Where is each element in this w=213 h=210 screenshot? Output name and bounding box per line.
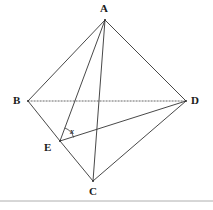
geometry-figure: A B C D E x (0, 0, 213, 210)
edge-ad (105, 20, 186, 101)
edge-ac (93, 20, 105, 181)
vertex-dot-c (92, 180, 94, 182)
edge-ec (60, 141, 93, 181)
edge-bе (28, 101, 60, 141)
edge-ed (60, 101, 186, 141)
angle-label-x: x (70, 128, 74, 136)
vertex-label-a: A (100, 3, 108, 14)
vertex-label-c: C (89, 186, 97, 197)
vertex-label-b: B (13, 95, 20, 106)
edge-cd (93, 101, 186, 181)
edge-ae (60, 20, 105, 141)
vertex-dot-d (185, 100, 187, 102)
vertex-dot-a (104, 19, 106, 21)
vertex-label-d: D (191, 95, 199, 106)
edge-ab (28, 20, 105, 101)
figure-svg (0, 0, 213, 210)
vertex-dot-b (27, 100, 29, 102)
vertex-dot-e (59, 140, 61, 142)
vertex-label-e: E (44, 142, 51, 153)
